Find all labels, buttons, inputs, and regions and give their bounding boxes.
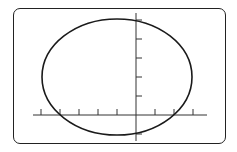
coordinate-axes [33,13,207,141]
graph-canvas [0,0,237,152]
ellipse-curve [42,19,192,135]
